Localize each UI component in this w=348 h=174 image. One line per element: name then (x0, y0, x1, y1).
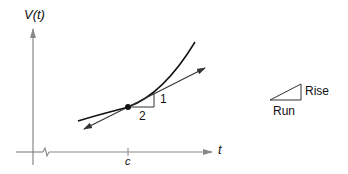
rise-run-triangle-icon (270, 84, 301, 100)
slope-run-label: 2 (139, 109, 146, 123)
x-axis-label: t (218, 142, 222, 157)
tangent-line-lower (84, 107, 128, 129)
legend-run-label: Run (273, 104, 295, 118)
x-tick-label-c: c (125, 155, 131, 167)
x-axis (16, 148, 212, 156)
tangent-point (125, 104, 131, 110)
axis-break-icon (43, 148, 49, 156)
slope-rise-label: 1 (160, 92, 167, 106)
y-axis-label: V(t) (24, 7, 45, 22)
tangent-diagram (0, 0, 348, 174)
legend-rise-label: Rise (305, 84, 329, 98)
